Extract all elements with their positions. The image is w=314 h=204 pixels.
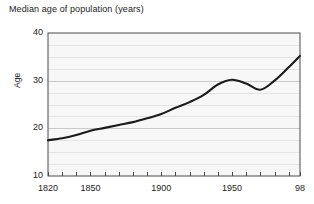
chart-figure: Median age of population (years) Age 102… xyxy=(0,0,314,204)
y-tick-label: 20 xyxy=(21,122,43,132)
plot-background xyxy=(48,33,300,176)
x-tick-label: 1950 xyxy=(212,183,252,193)
x-tick-label: 98 xyxy=(280,183,314,193)
plot-background-group xyxy=(48,33,300,176)
x-tick-label: 1820 xyxy=(28,183,68,193)
y-tick-label: 10 xyxy=(21,170,43,180)
y-tick-label: 30 xyxy=(21,75,43,85)
plot-area xyxy=(0,0,314,204)
x-tick-label: 1850 xyxy=(70,183,110,193)
x-tick-label: 1900 xyxy=(141,183,181,193)
y-tick-label: 40 xyxy=(21,27,43,37)
